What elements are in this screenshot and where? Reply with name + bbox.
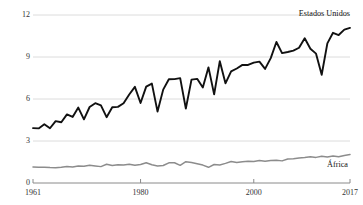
- series-line-estados-unidos: [33, 28, 350, 129]
- series-label-africa: África: [327, 160, 348, 169]
- x-tick-label: 1961: [10, 188, 56, 197]
- tick-marks-group: [33, 179, 350, 183]
- y-tick-label: 0: [8, 178, 30, 187]
- series-label-estados-unidos: Estados Unidos: [299, 9, 350, 18]
- gridlines-group: [33, 15, 350, 141]
- y-tick-label: 3: [8, 136, 30, 145]
- x-tick-label: 2000: [231, 188, 277, 197]
- y-tick-label: 6: [8, 94, 30, 103]
- series-line-africa: [33, 155, 350, 168]
- x-tick-label: 2017: [327, 188, 363, 197]
- y-tick-label: 12: [8, 10, 30, 19]
- y-tick-label: 9: [8, 52, 30, 61]
- x-tick-label: 1980: [118, 188, 164, 197]
